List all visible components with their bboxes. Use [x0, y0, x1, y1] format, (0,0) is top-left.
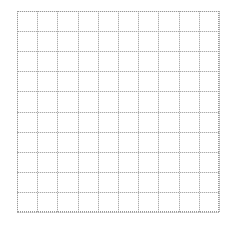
solid-gridlines-layer	[17, 11, 219, 212]
gridline-horizontal-dotted	[17, 91, 219, 92]
gridline-horizontal-dotted	[17, 51, 219, 52]
gridline-vertical	[179, 11, 180, 212]
gridline-horizontal-dotted	[17, 172, 219, 173]
gridline-vertical	[138, 11, 139, 212]
gridline-vertical	[78, 11, 79, 212]
canvas	[0, 0, 236, 226]
gridline-vertical-dotted	[118, 11, 119, 212]
gridline-horizontal	[17, 51, 219, 52]
gridline-horizontal-dotted	[17, 152, 219, 153]
gridline-vertical-dotted	[158, 11, 159, 212]
gridline-horizontal-dotted	[17, 112, 219, 113]
grid-frame-border	[17, 11, 219, 212]
gridline-vertical	[118, 11, 119, 212]
gridline-vertical	[57, 11, 58, 212]
gridline-vertical	[158, 11, 159, 212]
gridline-horizontal	[17, 91, 219, 92]
gridline-vertical	[17, 11, 18, 212]
gridline-vertical-dotted	[37, 11, 38, 212]
gridline-vertical-dotted	[219, 11, 220, 212]
gridline-horizontal	[17, 152, 219, 153]
gridline-horizontal-dotted	[17, 212, 219, 213]
gridline-horizontal-dotted	[17, 11, 219, 12]
gridline-horizontal	[17, 11, 219, 12]
gridline-horizontal	[17, 31, 219, 32]
gridline-horizontal	[17, 132, 219, 133]
gridline-vertical	[37, 11, 38, 212]
grid-plot-area[interactable]	[17, 11, 219, 212]
gridline-horizontal-dotted	[17, 71, 219, 72]
gridline-vertical-dotted	[17, 11, 18, 212]
gridline-horizontal-dotted	[17, 192, 219, 193]
gridline-vertical-dotted	[138, 11, 139, 212]
gridline-vertical-dotted	[78, 11, 79, 212]
gridline-vertical-dotted	[199, 11, 200, 212]
gridline-horizontal	[17, 172, 219, 173]
gridline-vertical	[219, 11, 220, 212]
gridline-horizontal	[17, 192, 219, 193]
gridline-vertical	[98, 11, 99, 212]
gridline-vertical-dotted	[57, 11, 58, 212]
gridline-horizontal	[17, 112, 219, 113]
gridline-horizontal	[17, 71, 219, 72]
gridline-horizontal	[17, 212, 219, 213]
gridline-vertical	[199, 11, 200, 212]
gridline-horizontal-dotted	[17, 132, 219, 133]
gridline-vertical-dotted	[179, 11, 180, 212]
dotted-gridlines-layer	[17, 11, 219, 212]
gridline-horizontal-dotted	[17, 31, 219, 32]
gridline-vertical-dotted	[98, 11, 99, 212]
